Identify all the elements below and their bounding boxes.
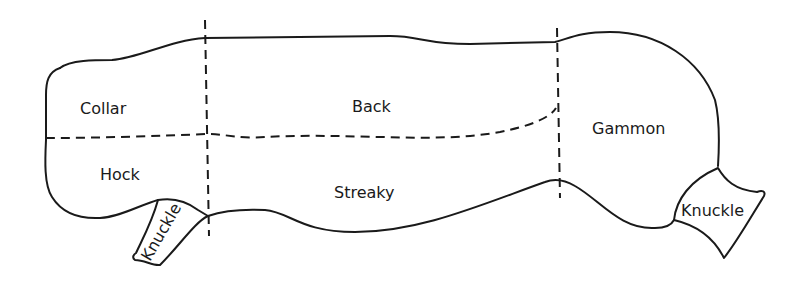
outline-bottom: [208, 180, 674, 232]
label-collar: Collar: [80, 99, 127, 118]
label-knuckle-left: Knuckle: [137, 200, 185, 264]
bacon-cuts-diagram: Collar Back Hock Streaky Gammon Knuckle …: [0, 0, 803, 283]
label-knuckle-right: Knuckle: [681, 201, 744, 220]
divider-vertical-right: [557, 28, 560, 198]
label-gammon: Gammon: [592, 119, 665, 138]
divider-vertical-left: [205, 20, 209, 236]
label-streaky: Streaky: [334, 183, 394, 202]
outline-left: [45, 68, 158, 218]
label-hock: Hock: [100, 165, 141, 184]
label-back: Back: [352, 97, 392, 116]
